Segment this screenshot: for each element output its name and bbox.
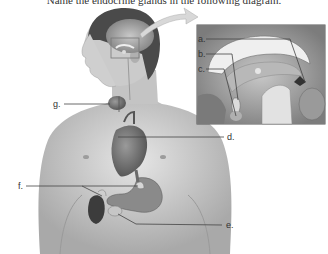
- endocrine-diagram: [0, 0, 328, 254]
- label-f: f.: [18, 181, 23, 191]
- label-a: a.: [198, 34, 206, 44]
- label-e: e.: [226, 220, 234, 230]
- label-d: d.: [227, 132, 235, 142]
- label-c: c.: [198, 64, 205, 74]
- pancreas: [108, 206, 122, 216]
- label-g: g.: [53, 99, 61, 109]
- label-b: b.: [198, 49, 206, 59]
- brain-inset: [197, 25, 325, 124]
